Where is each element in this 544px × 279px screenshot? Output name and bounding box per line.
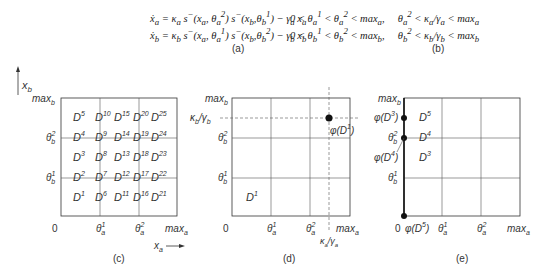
svg-text:D18: D18 — [133, 150, 149, 163]
svg-text:θ1b: θ1b — [218, 170, 227, 185]
panel-c: xb maxb θ2b θ1b 0 θ1a θ2a maxa xa D5 D10… — [16, 66, 188, 264]
svg-text:D6: D6 — [95, 190, 107, 203]
svg-text:D14: D14 — [114, 130, 130, 143]
svg-text:φ(D5): φ(D5) — [405, 221, 429, 234]
caption-e: (e) — [456, 253, 468, 264]
svg-text:D16: D16 — [133, 190, 149, 203]
caption-c: (c) — [113, 253, 125, 264]
svg-text:D19: D19 — [133, 130, 149, 143]
svg-text:D1: D1 — [246, 190, 258, 203]
svg-text:D21: D21 — [151, 190, 167, 203]
svg-text:maxa: maxa — [507, 223, 530, 236]
svg-text:θ1a: θ1a — [267, 221, 276, 236]
panel-d: φ(D1) maxb κb/γb θ2b θ1b 0 θ1a θ2a maxa … — [190, 87, 360, 264]
svg-text:D23: D23 — [151, 150, 167, 163]
svg-text:D17: D17 — [133, 170, 150, 183]
svg-text:D4: D4 — [419, 130, 431, 143]
svg-text:θ2b: θ2b — [218, 130, 227, 145]
svg-text:xa: xa — [153, 240, 163, 253]
svg-text:D4: D4 — [73, 130, 85, 143]
svg-text:xb: xb — [21, 79, 33, 94]
arrow-right-icon — [179, 244, 185, 248]
svg-text:D8: D8 — [95, 150, 107, 163]
arrow-up-icon — [16, 66, 20, 72]
svg-text:θ1a: θ1a — [438, 221, 447, 236]
svg-text:D25: D25 — [151, 110, 167, 123]
svg-text:θ2b: θ2b — [388, 130, 397, 145]
svg-text:D7: D7 — [95, 170, 108, 183]
caption-d: (d) — [283, 253, 295, 264]
svg-text:maxb: maxb — [32, 93, 55, 106]
svg-text:D9: D9 — [95, 130, 107, 143]
phase-diagrams: xb maxb θ2b θ1b 0 θ1a θ2a maxa xa D5 D10… — [0, 0, 544, 279]
svg-text:D24: D24 — [151, 130, 167, 143]
svg-text:D2: D2 — [73, 170, 85, 183]
svg-text:φ(D4): φ(D4) — [374, 150, 398, 163]
svg-text:0: 0 — [223, 223, 229, 234]
panel-e: maxb φ(D3) θ2b φ(D4) θ1b 0 φ(D5) θ1a θ2a… — [374, 93, 530, 264]
svg-text:θ1a: θ1a — [96, 221, 105, 236]
svg-text:φ(D1): φ(D1) — [330, 123, 354, 136]
svg-text:maxb: maxb — [378, 93, 401, 106]
equilibrium-point — [326, 115, 333, 122]
svg-text:0: 0 — [52, 223, 58, 234]
svg-text:maxa: maxa — [165, 223, 188, 236]
svg-text:φ(D3): φ(D3) — [374, 110, 398, 123]
svg-text:D20: D20 — [133, 110, 149, 123]
point-phi-d3 — [401, 115, 407, 121]
svg-text:D22: D22 — [151, 170, 167, 183]
svg-text:D5: D5 — [419, 110, 431, 123]
svg-text:D11: D11 — [114, 190, 129, 203]
svg-text:D15: D15 — [114, 110, 130, 123]
svg-text:κa/γa: κa/γa — [320, 236, 339, 248]
svg-text:θ2b: θ2b — [46, 130, 55, 145]
svg-text:κb/γb: κb/γb — [190, 112, 211, 125]
svg-text:θ1b: θ1b — [46, 170, 55, 185]
svg-text:D13: D13 — [114, 150, 130, 163]
svg-text:θ2a: θ2a — [135, 221, 144, 236]
svg-text:D1: D1 — [73, 190, 85, 203]
svg-text:D3: D3 — [419, 150, 431, 163]
svg-text:D12: D12 — [114, 170, 130, 183]
svg-text:0: 0 — [395, 223, 401, 234]
svg-text:D3: D3 — [73, 150, 85, 163]
svg-text:θ2a: θ2a — [306, 221, 315, 236]
point-phi-d5 — [401, 213, 407, 219]
svg-text:maxa: maxa — [336, 223, 359, 236]
svg-text:θ1b: θ1b — [388, 170, 397, 185]
svg-text:maxb: maxb — [205, 93, 228, 106]
svg-text:θ2a: θ2a — [477, 221, 486, 236]
svg-text:D5: D5 — [73, 110, 85, 123]
svg-text:D10: D10 — [95, 110, 111, 123]
